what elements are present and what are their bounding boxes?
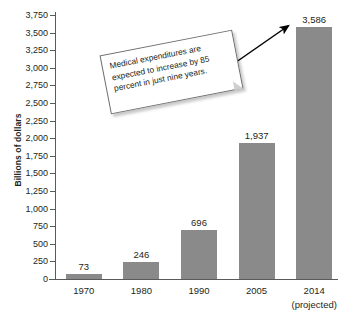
chart-title-sliver <box>38 0 238 2</box>
x-axis-line <box>49 279 338 280</box>
y-tick-label: 2,000 <box>25 133 48 143</box>
y-tick <box>50 121 55 122</box>
y-tick <box>50 156 55 157</box>
bar-value-label: 73 <box>79 261 90 272</box>
y-tick-label: 2,500 <box>25 98 48 108</box>
y-tick-label: 3,750 <box>25 10 48 20</box>
bar-value-label: 1,937 <box>245 130 269 141</box>
y-tick-label: 1,500 <box>25 168 48 178</box>
y-tick-label: 1,250 <box>25 186 48 196</box>
x-tick-label: 2014 <box>304 285 325 296</box>
y-axis-line <box>55 12 56 280</box>
y-tick-label: 3,000 <box>25 63 48 73</box>
bar-value-label: 696 <box>191 217 207 228</box>
y-tick <box>50 68 55 69</box>
y-tick-label: 2,250 <box>25 116 48 126</box>
x-tick-label: 2005 <box>246 285 267 296</box>
y-tick <box>50 138 55 139</box>
y-tick-label: 3,250 <box>25 45 48 55</box>
y-tick <box>50 226 55 227</box>
bar-chart: Billions of dollars 02505007501,0001,250… <box>0 0 348 311</box>
y-tick <box>50 50 55 51</box>
x-tick-label: 1970 <box>73 285 94 296</box>
x-tick-note: (projected) <box>291 299 336 310</box>
bar <box>66 274 102 279</box>
y-tick-label: 1,000 <box>25 204 48 214</box>
y-tick <box>50 209 55 210</box>
y-tick <box>50 261 55 262</box>
x-tick-label: 1990 <box>188 285 209 296</box>
y-tick-label: 500 <box>33 239 48 249</box>
y-tick-label: 750 <box>33 221 48 231</box>
bar-value-label: 3,586 <box>302 14 326 25</box>
y-tick <box>50 33 55 34</box>
y-tick <box>50 85 55 86</box>
y-tick-label: 3,500 <box>25 28 48 38</box>
y-tick <box>50 103 55 104</box>
y-tick-label: 0 <box>43 274 48 284</box>
bar <box>296 27 332 279</box>
bar <box>181 230 217 279</box>
y-tick <box>50 15 55 16</box>
x-tick-label: 1980 <box>131 285 152 296</box>
bar <box>239 143 275 279</box>
y-tick <box>50 191 55 192</box>
callout-fold-corner <box>233 80 244 91</box>
bar <box>123 262 159 279</box>
y-tick-label: 2,750 <box>25 80 48 90</box>
y-tick-label: 1,750 <box>25 151 48 161</box>
y-axis-title: Billions of dollars <box>13 90 23 210</box>
y-tick <box>50 279 55 280</box>
bar-value-label: 246 <box>133 249 149 260</box>
y-tick <box>50 244 55 245</box>
y-tick-label: 250 <box>33 256 48 266</box>
y-tick <box>50 173 55 174</box>
